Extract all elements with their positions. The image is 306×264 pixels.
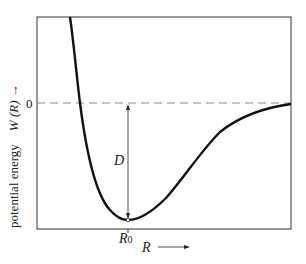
zero-tick-label: 0 [26,96,33,112]
potential-curve [70,17,291,220]
r0-label: R0 [119,231,133,247]
y-axis-label: potential energy W (R) → [6,84,22,228]
y-axis-arrow-icon: → [6,84,21,97]
minimum-point-marker [126,218,130,222]
x-axis-arrow-head-icon [184,245,190,249]
depth-label: D [114,153,124,169]
r0-sub: 0 [128,234,133,245]
potential-energy-diagram [0,0,306,264]
y-axis-symbol: W (R) [6,100,21,131]
depth-arrow-top-head-icon [126,104,130,110]
r0-main: R [119,231,128,246]
y-axis-text: potential energy [6,144,21,228]
x-axis-label: R [142,240,151,256]
